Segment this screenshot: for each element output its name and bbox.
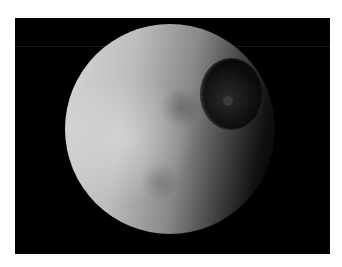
large-crater xyxy=(200,58,262,130)
moon-disc xyxy=(65,24,275,234)
moon-photo xyxy=(15,18,330,254)
crater-central-peak xyxy=(223,96,233,106)
